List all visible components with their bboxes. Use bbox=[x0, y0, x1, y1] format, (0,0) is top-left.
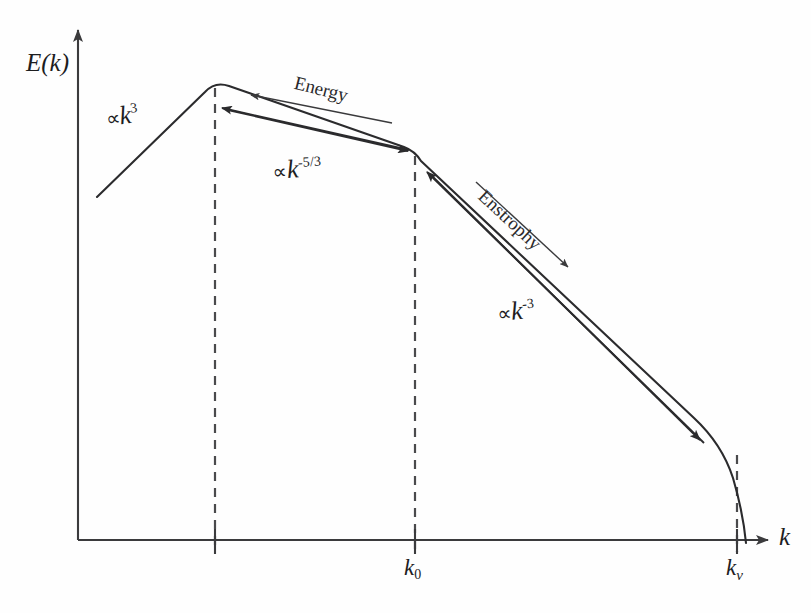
tick-k0-symbol: k bbox=[404, 555, 414, 580]
power-law-km3-exponent: -3 bbox=[521, 296, 534, 312]
y-axis-label: E(k) bbox=[26, 50, 69, 75]
tick-knu-symbol: k bbox=[726, 555, 736, 580]
tick-knu-subscript: ν bbox=[736, 567, 743, 583]
power-law-k53-label: ∝k-5/3 bbox=[272, 155, 323, 184]
power-law-k53-exponent: -5/3 bbox=[297, 154, 321, 171]
energy-cascade-double-arrow bbox=[222, 108, 409, 151]
proportional-icon: ∝ bbox=[272, 160, 288, 183]
figure-canvas: E(k) k k0 kν ∝k3 ∝k-5/3 ∝k-3 Energy Enst… bbox=[0, 0, 811, 613]
energy-spectrum-curve bbox=[97, 84, 746, 543]
power-law-km3-label: ∝k-3 bbox=[496, 297, 536, 326]
enstrophy-cascade-double-arrow bbox=[427, 172, 704, 443]
tick-label-knu: kν bbox=[726, 556, 743, 583]
power-law-k3-label: ∝k3 bbox=[104, 101, 140, 131]
tick-label-k0: k0 bbox=[404, 556, 421, 582]
spectrum-plot bbox=[0, 0, 811, 613]
x-axis-label: k bbox=[779, 524, 790, 549]
tick-k0-subscript: 0 bbox=[414, 567, 421, 582]
